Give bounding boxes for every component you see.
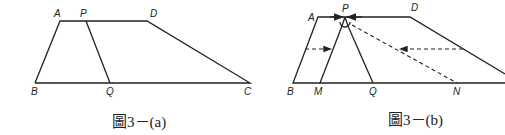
label-m-b: M [314,86,323,97]
label-d: D [150,8,157,19]
label-p-b: P [342,3,349,14]
segment-pm [320,26,342,83]
label-d-b: D [411,2,418,13]
figure-b: A P D B M Q N 圖3－(b) [287,2,505,129]
segment-pq [86,21,110,83]
label-a-b: A [307,12,315,23]
label-b-b: B [287,86,294,97]
label-c: C [244,86,252,97]
dashed-pn [352,25,457,83]
label-n-b: N [453,86,461,97]
segment-pq-b [348,26,373,83]
label-b: B [31,86,38,97]
apex-left [342,17,345,26]
label-p: P [80,8,87,19]
caption-a: 圖3－(a) [112,114,166,131]
diagram-canvas: A P D B Q C 圖3－(a) A P D B M Q N 圖3－(b) [0,0,505,135]
label-a: A [53,8,61,19]
label-q-b: Q [369,86,377,97]
figure-a: A P D B Q C 圖3－(a) [31,8,252,131]
label-q: Q [106,86,114,97]
caption-b: 圖3－(b) [388,112,443,129]
angle-arc [340,22,350,27]
trapezoid-abcd-b [293,17,505,83]
trapezoid-abcd [35,21,250,83]
apex-right [345,17,348,26]
